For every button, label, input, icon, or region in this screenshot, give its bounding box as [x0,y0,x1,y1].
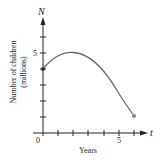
x-axis-arrow-icon [140,131,148,136]
y-tick-label-5: 5 [33,49,37,58]
data-curve [43,52,134,116]
chart: N t 5 0 5 Years Number of children (mill… [0,0,163,164]
end-point [132,114,136,118]
x-axis-symbol: t [150,127,153,138]
y-axis-symbol: N [37,6,46,17]
start-point [41,67,45,71]
y-axis-title-line1: Number of children [9,40,18,103]
x-tick-label-5: 5 [117,136,121,145]
y-axis-title-line2: (millions) [19,56,28,88]
x-tick-label-0: 0 [36,136,40,145]
y-axis-arrow-icon [41,17,46,25]
x-axis-title: Years [79,146,97,155]
